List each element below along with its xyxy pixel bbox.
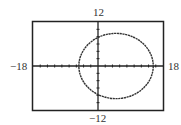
x-max-label: 18 <box>168 61 179 72</box>
axes <box>33 22 163 110</box>
x-min-label: −18 <box>10 61 27 72</box>
y-max-label: 12 <box>93 7 104 18</box>
y-min-label: −12 <box>89 113 106 124</box>
